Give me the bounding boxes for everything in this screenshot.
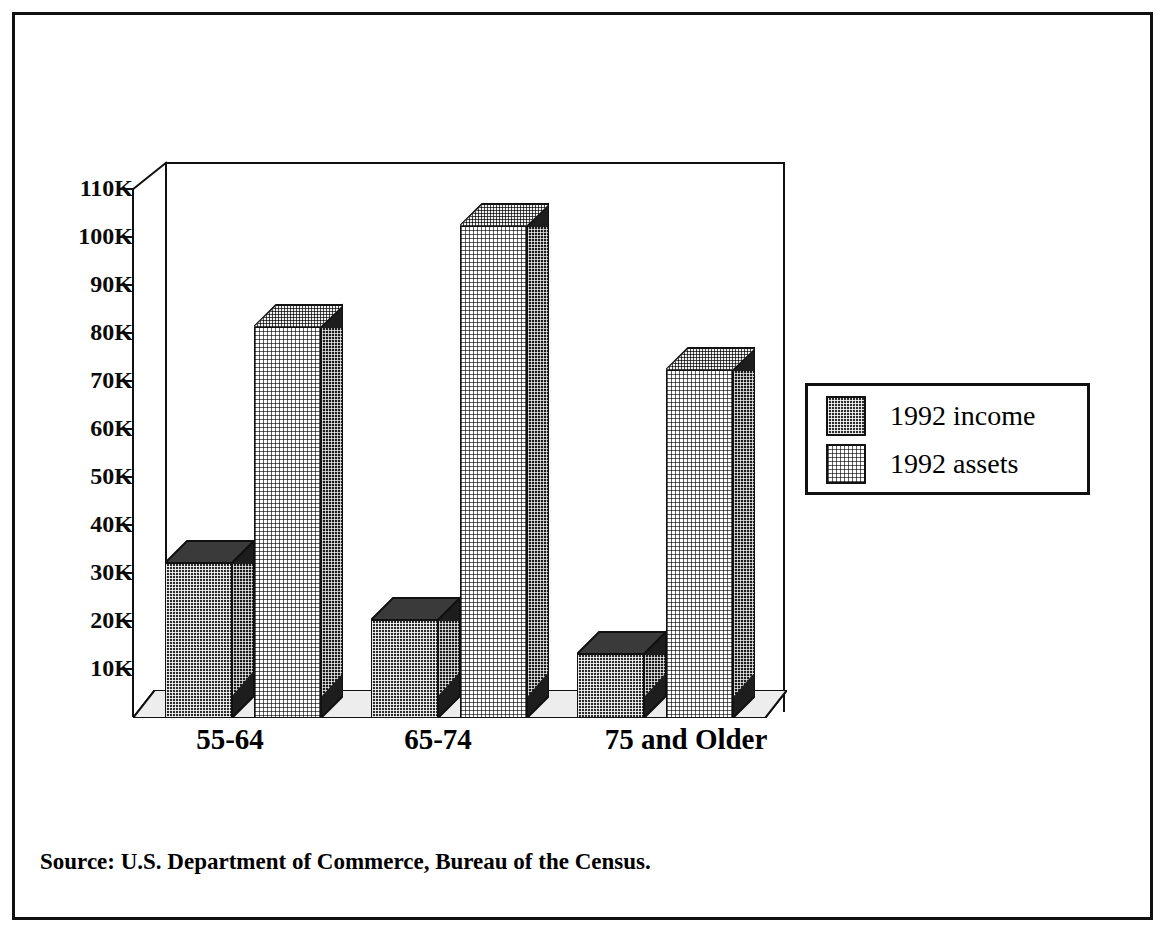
y-tick-label-70k: 70K [55,368,133,392]
y-tick-label-110k: 110K [55,176,133,200]
legend-swatch-income [826,396,866,436]
legend-label-assets: 1992 assets [890,449,1018,479]
x-axis-label-65-74: 65-74 [348,722,528,756]
legend-item-assets[interactable]: 1992 assets [826,442,1018,486]
y-tick-label-10k: 10K [55,656,133,680]
x-axis-label-55-64: 55-64 [140,722,320,756]
bar-front-fill [667,371,732,717]
bar-front-fill [255,328,320,717]
bar-65-74-assets[interactable] [460,190,549,718]
bar-side-fill [528,227,548,696]
bar-55-64-assets[interactable] [254,291,343,718]
y-tick-label-90k: 90K [55,272,133,296]
x-axis-label-75-older: 75 and Older [556,722,816,756]
legend-swatch-assets [826,444,866,484]
bar-front-fill [166,564,231,717]
chart-legend: 1992 income 1992 assets [805,383,1090,495]
bar-side-fill [734,371,754,696]
axis-top-diagonal [130,160,170,192]
bar-front-fill [578,655,643,717]
y-tick-label-50k: 50K [55,464,133,488]
source-note: Source: U.S. Department of Commerce, Bur… [40,848,651,876]
y-tick-label-40k: 40K [55,512,133,536]
y-tick-label-60k: 60K [55,416,133,440]
bar-75-older-assets[interactable] [666,334,755,718]
y-tick-label-20k: 20K [55,608,133,632]
bar-chart: 110K 100K 90K 80K 70K 60K 50K 40K 30K 20… [0,0,1167,937]
y-tick-label-100k: 100K [55,224,133,248]
bar-55-64-income[interactable] [165,527,254,718]
legend-label-income: 1992 income [890,401,1035,431]
bar-side-fill [322,328,342,696]
y-tick-label-80k: 80K [55,320,133,344]
y-tick-label-30k: 30K [55,560,133,584]
bar-front-fill [461,227,526,717]
y-axis-line [132,189,134,717]
bar-75-older-income[interactable] [577,618,666,718]
bar-front-fill [372,621,437,717]
legend-item-income[interactable]: 1992 income [826,394,1035,438]
bar-65-74-income[interactable] [371,584,460,718]
